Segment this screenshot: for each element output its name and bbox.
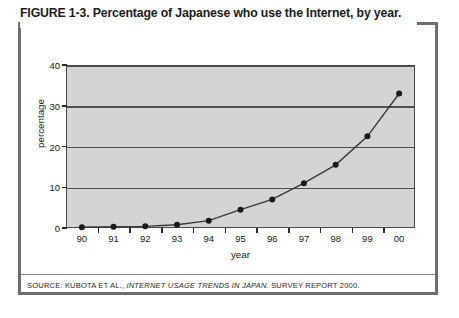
x-tick-mark <box>193 228 195 233</box>
source-note: SOURCE: KUBOTA ET AL., INTERNET USAGE TR… <box>27 281 360 290</box>
x-tick-label: 00 <box>394 233 405 244</box>
x-tick-label: 99 <box>362 233 373 244</box>
y-tick-mark <box>62 187 67 189</box>
figure-title: FIGURE 1-3. Percentage of Japanese who u… <box>20 6 401 20</box>
x-tick-label: 91 <box>108 233 119 244</box>
data-point-marker <box>142 223 148 229</box>
x-tick-label: 96 <box>267 233 278 244</box>
source-title: INTERNET USAGE TRENDS IN JAPAN. <box>126 281 268 290</box>
data-point-marker <box>269 196 275 202</box>
figure-root: FIGURE 1-3. Percentage of Japanese who u… <box>0 0 459 318</box>
data-point-marker <box>238 207 244 213</box>
x-tick-mark <box>129 228 131 233</box>
source-divider <box>21 274 435 275</box>
data-point-marker <box>396 91 402 97</box>
x-axis-title: year <box>66 249 415 260</box>
y-tick-mark <box>62 227 67 229</box>
source-suffix: SURVEY REPORT 2000. <box>269 281 360 290</box>
x-tick-mark <box>225 228 227 233</box>
y-tick-label: 30 <box>49 100 60 111</box>
data-point-marker <box>333 162 339 168</box>
x-tick-label: 95 <box>235 233 246 244</box>
x-axis-tick-labels: 9091929394959697989900 <box>66 233 415 247</box>
series-internet-usage <box>66 65 415 228</box>
x-tick-mark <box>320 228 322 233</box>
data-point-marker <box>174 222 180 228</box>
data-point-marker <box>111 224 117 230</box>
x-tick-mark <box>98 228 100 233</box>
y-tick-mark <box>62 105 67 107</box>
x-tick-mark <box>256 228 258 233</box>
x-tick-label: 92 <box>140 233 151 244</box>
x-tick-label: 94 <box>203 233 214 244</box>
x-tick-label: 93 <box>172 233 183 244</box>
y-tick-label: 20 <box>49 141 60 152</box>
y-tick-label: 10 <box>49 182 60 193</box>
y-tick-mark <box>62 146 67 148</box>
data-point-marker <box>301 180 307 186</box>
x-tick-label: 90 <box>77 233 88 244</box>
x-tick-mark <box>352 228 354 233</box>
x-tick-mark <box>288 228 290 233</box>
x-tick-mark <box>383 228 385 233</box>
data-point-marker <box>364 133 370 139</box>
chart-area: percentage 010203040 9091929394959697989… <box>18 22 438 274</box>
x-tick-label: 98 <box>330 233 341 244</box>
y-axis-tick-labels: 010203040 <box>34 65 60 228</box>
y-tick-mark <box>62 64 67 66</box>
source-prefix: SOURCE: KUBOTA ET AL., <box>27 281 126 290</box>
data-point-marker <box>79 224 85 230</box>
y-tick-label: 0 <box>55 223 60 234</box>
data-point-marker <box>206 218 212 224</box>
y-tick-label: 40 <box>49 60 60 71</box>
x-tick-mark <box>161 228 163 233</box>
x-tick-label: 97 <box>299 233 310 244</box>
